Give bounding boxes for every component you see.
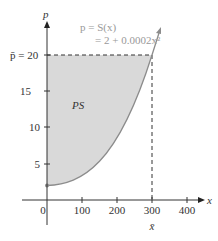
x-tick-400: 400 — [179, 204, 196, 216]
y-tick-5: 5 — [35, 158, 41, 170]
y-tick-10: 10 — [29, 121, 41, 133]
y-axis-arrow-icon — [44, 21, 50, 28]
curve-arrow-icon — [156, 27, 161, 34]
function-label-line1: p = S(x) — [80, 21, 116, 34]
x-axis-arrow-icon — [198, 197, 205, 203]
function-label-line2: = 2 + 0.0002x² — [95, 34, 161, 46]
y-tick-15: 15 — [20, 85, 32, 97]
x-tick-100: 100 — [74, 204, 91, 216]
region-label: PS — [71, 99, 85, 111]
equilibrium-price-label: p̄ = 20 — [10, 49, 39, 61]
x-tick-0: 0 — [40, 204, 46, 216]
x-tick-300: 300 — [144, 204, 161, 216]
x-tick-200: 200 — [109, 204, 126, 216]
y-axis-label: p — [42, 8, 49, 20]
x-axis-label: x — [206, 194, 212, 206]
equilibrium-quantity-label: x̄ — [149, 220, 155, 232]
producer-surplus-region — [47, 55, 152, 186]
supply-curve-chart: p x p̄ = 20 15 10 5 0 100 200 300 400 x̄… — [0, 0, 218, 241]
